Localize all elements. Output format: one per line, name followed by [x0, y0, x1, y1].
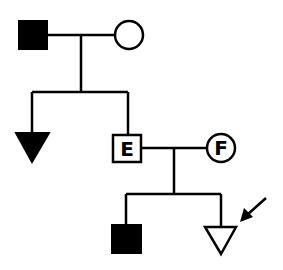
pedigree-diagram: E F: [0, 0, 283, 270]
affected-pregnancy-loss-icon: [16, 133, 49, 162]
affected-male-icon: [19, 21, 47, 49]
connector-lines: [32, 35, 221, 226]
label-f: F: [214, 136, 228, 160]
label-e: E: [120, 137, 134, 161]
proband-pregnancy-loss-icon: [205, 227, 236, 254]
arrow-icon: [240, 198, 266, 222]
unaffected-female-icon: [115, 21, 143, 49]
affected-male-gen3-icon: [112, 225, 141, 253]
